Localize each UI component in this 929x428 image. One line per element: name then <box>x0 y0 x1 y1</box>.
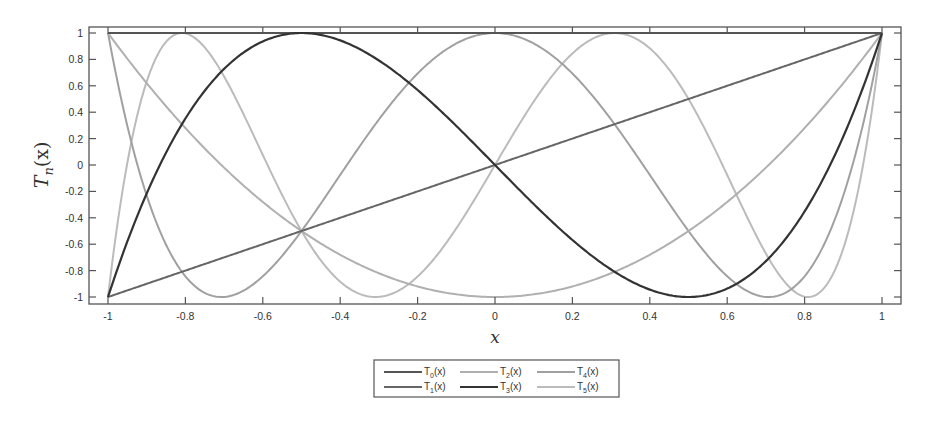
x-tick-label: 0 <box>492 310 498 322</box>
y-tick-label: 0 <box>77 159 83 171</box>
x-axis-label: x <box>490 327 500 347</box>
x-tick-label: 0.6 <box>720 310 735 322</box>
x-tick-label: -0.2 <box>409 310 427 322</box>
plot-lines <box>108 33 882 297</box>
x-tick-label: 0.4 <box>642 310 657 322</box>
y-tick-label: 0.8 <box>68 53 83 65</box>
x-tick-label: -0.6 <box>254 310 272 322</box>
y-tick-label: 0.4 <box>68 106 83 118</box>
x-tick-label: 1 <box>879 310 885 322</box>
y-tick-label: 0.6 <box>68 80 83 92</box>
y-tick-label: -0.4 <box>65 212 83 224</box>
legend: T0(x)T1(x)T2(x)T3(x)T4(x)T5(x) <box>374 360 619 397</box>
y-tick-label: -0.6 <box>65 238 83 250</box>
x-tick-label: 0.2 <box>565 310 580 322</box>
y-tick-label: 0.2 <box>68 133 83 145</box>
y-tick-label: -1 <box>74 291 83 303</box>
y-tick-label: 1 <box>77 27 83 39</box>
y-tick-label: -0.2 <box>65 185 83 197</box>
y-axis-label: Tn(x) <box>30 142 56 189</box>
x-tick-label: -0.4 <box>331 310 349 322</box>
x-tick-label: -1 <box>103 310 112 322</box>
svg-text:Tn(x): Tn(x) <box>30 142 56 189</box>
x-tick-label: 0.8 <box>797 310 812 322</box>
chebyshev-chart: -1-0.8-0.6-0.4-0.200.20.40.60.81 -1-0.8-… <box>0 0 929 428</box>
x-tick-label: -0.8 <box>176 310 194 322</box>
y-tick-label: -0.8 <box>65 265 83 277</box>
